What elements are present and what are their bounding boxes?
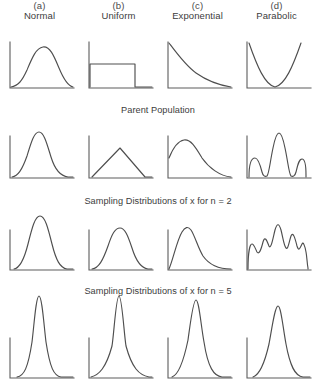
plot-parent-uniform <box>79 28 158 96</box>
column-name-exponential: Exponential <box>158 11 237 21</box>
column-name-uniform: Uniform <box>79 11 158 21</box>
plot-n30-normal <box>0 296 79 382</box>
column-name-parabolic: Parabolic <box>237 11 316 21</box>
column-header-parabolic: (d) Parabolic <box>237 0 316 30</box>
plot-n30-parabolic <box>237 296 316 382</box>
plot-n30-uniform <box>79 296 158 382</box>
curve-n2-parabolic <box>249 133 306 177</box>
curve-parent-uniform <box>90 64 152 87</box>
curve-n30-exponential <box>172 300 231 377</box>
curve-parent-parabolic <box>249 43 301 87</box>
curve-n30-normal <box>17 296 73 377</box>
curve-parent-normal <box>11 47 73 87</box>
plot-parent-normal <box>0 28 79 96</box>
plot-n5-parabolic <box>237 208 316 276</box>
curve-n5-parabolic <box>248 225 308 269</box>
curve-n2-exponential <box>169 140 231 177</box>
curve-n5-normal <box>14 216 73 269</box>
plot-n30-exponential <box>158 296 237 382</box>
plot-parent-exponential <box>158 28 237 96</box>
plot-parent-parabolic <box>237 28 316 96</box>
caption-n5: Sampling Distributions of x for n = 5 <box>0 286 316 296</box>
plot-n5-exponential <box>158 208 237 276</box>
plot-row-n2 <box>0 118 316 186</box>
caption-n2: Sampling Distributions of x for n = 2 <box>0 196 316 206</box>
plot-row-parent-population <box>0 28 316 96</box>
column-header-uniform: (b) Uniform <box>79 0 158 30</box>
curve-parent-exponential <box>169 43 231 87</box>
plot-row-n5 <box>0 208 316 276</box>
column-name-normal: Normal <box>0 11 79 21</box>
curve-n30-parabolic <box>253 306 310 377</box>
plot-n2-parabolic <box>237 118 316 186</box>
caption-parent-population: Parent Population <box>0 105 316 115</box>
clt-figure: (a) Normal (b) Uniform (c) Exponential (… <box>0 0 316 383</box>
curve-n30-uniform <box>91 296 152 377</box>
curve-n5-exponential <box>169 228 231 269</box>
plot-n2-normal <box>0 118 79 186</box>
curve-n2-normal <box>12 132 73 177</box>
curve-n5-uniform <box>92 228 152 269</box>
curve-n2-uniform <box>92 148 152 177</box>
plot-n5-normal <box>0 208 79 276</box>
plot-row-n30 <box>0 296 316 382</box>
column-header-exponential: (c) Exponential <box>158 0 237 30</box>
column-header-normal: (a) Normal <box>0 0 79 30</box>
plot-n5-uniform <box>79 208 158 276</box>
plot-n2-exponential <box>158 118 237 186</box>
plot-n2-uniform <box>79 118 158 186</box>
column-header-row: (a) Normal (b) Uniform (c) Exponential (… <box>0 0 316 30</box>
